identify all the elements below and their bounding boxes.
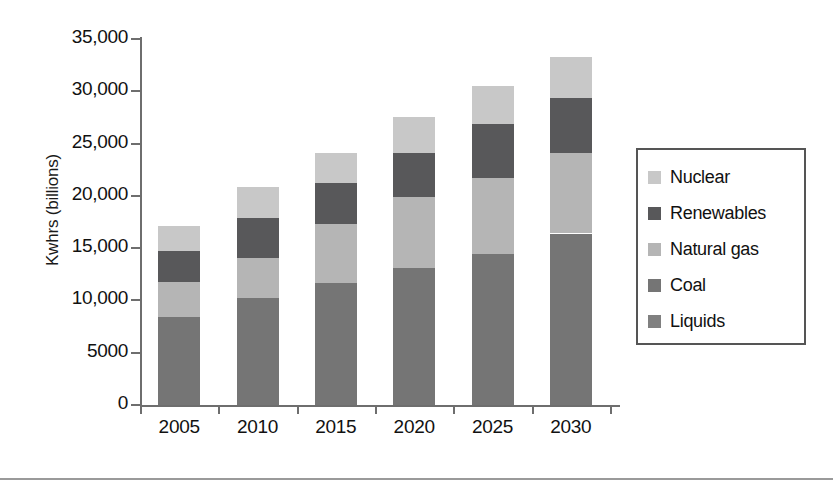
y-axis-tick-label: 25,000 [0, 131, 128, 153]
bottom-divider [0, 478, 833, 480]
legend-label: Nuclear [670, 167, 730, 188]
bar-segment[interactable] [393, 197, 435, 268]
legend-swatch-icon [648, 279, 661, 292]
chart-legend: NuclearRenewablesNatural gasCoalLiquids [636, 148, 806, 345]
bar-segment[interactable] [237, 298, 279, 405]
bar-segment[interactable] [237, 187, 279, 217]
chart-figure: Kwhrs (billions) 0500010,00015,00020,000… [0, 0, 833, 484]
bar-group[interactable] [472, 39, 514, 405]
bar-segment[interactable] [237, 258, 279, 299]
bar-segment[interactable] [315, 153, 357, 183]
y-axis-tick [131, 247, 140, 249]
x-axis-tick [375, 405, 377, 414]
y-axis-tick [131, 299, 140, 301]
bar-segment[interactable] [237, 218, 279, 258]
x-axis-tick [532, 405, 534, 414]
bar-segment[interactable] [158, 251, 200, 281]
bar-segment[interactable] [550, 98, 592, 153]
legend-item[interactable]: Natural gas [648, 231, 804, 267]
x-axis-line [140, 405, 620, 407]
y-axis-tick-label: 0 [0, 392, 128, 414]
bar-group[interactable] [237, 39, 279, 405]
bar-segment[interactable] [315, 283, 357, 405]
bar-segment[interactable] [550, 153, 592, 234]
bar-group[interactable] [158, 39, 200, 405]
y-axis-tick-label: 20,000 [0, 183, 128, 205]
bar-segment[interactable] [472, 86, 514, 124]
bar-segment[interactable] [315, 224, 357, 283]
x-axis-tick [218, 405, 220, 414]
legend-label: Natural gas [670, 239, 759, 260]
y-axis-tick [131, 38, 140, 40]
bar-segment[interactable] [393, 153, 435, 197]
y-axis-tick-label: 35,000 [0, 26, 128, 48]
y-axis-tick-label: 10,000 [0, 287, 128, 309]
y-axis-tick [131, 352, 140, 354]
legend-swatch-icon [648, 243, 661, 256]
legend-swatch-icon [648, 207, 661, 220]
legend-label: Renewables [670, 203, 766, 224]
bar-segment[interactable] [158, 226, 200, 251]
bar-group[interactable] [393, 39, 435, 405]
y-axis-tick [131, 195, 140, 197]
bar-segment[interactable] [393, 268, 435, 405]
bar-group[interactable] [550, 39, 592, 405]
y-axis-tick-label: 15,000 [0, 235, 128, 257]
legend-swatch-icon [648, 315, 661, 328]
x-axis-tick-label: 2025 [448, 416, 538, 438]
bar-segment[interactable] [393, 117, 435, 153]
y-axis-tick-label: 30,000 [0, 78, 128, 100]
legend-item[interactable]: Renewables [648, 195, 804, 231]
x-axis-tick [140, 405, 142, 414]
bar-segment[interactable] [158, 282, 200, 318]
y-axis-tick [131, 404, 140, 406]
legend-item[interactable]: Nuclear [648, 159, 804, 195]
bar-segment[interactable] [550, 234, 592, 405]
x-axis-tick [453, 405, 455, 414]
legend-swatch-icon [648, 171, 661, 184]
bar-segment[interactable] [550, 57, 592, 98]
x-axis-tick [297, 405, 299, 414]
y-axis-tick-label: 5000 [0, 340, 128, 362]
bar-segment[interactable] [158, 317, 200, 405]
y-axis-tick [131, 90, 140, 92]
x-axis-tick-label: 2005 [134, 416, 224, 438]
x-axis-tick-label: 2020 [369, 416, 459, 438]
x-axis-tick-label: 2010 [213, 416, 303, 438]
legend-label: Coal [670, 275, 706, 296]
bar-segment[interactable] [315, 183, 357, 224]
bar-segment[interactable] [472, 254, 514, 405]
bar-segment[interactable] [472, 124, 514, 178]
x-axis-tick-label: 2015 [291, 416, 381, 438]
bars-container [140, 39, 610, 405]
bar-segment[interactable] [472, 178, 514, 254]
legend-item[interactable]: Liquids [648, 303, 804, 339]
legend-label: Liquids [670, 311, 725, 332]
y-axis-tick [131, 143, 140, 145]
x-axis-tick-label: 2030 [526, 416, 616, 438]
x-axis-tick [610, 405, 612, 414]
bar-group[interactable] [315, 39, 357, 405]
legend-item[interactable]: Coal [648, 267, 804, 303]
